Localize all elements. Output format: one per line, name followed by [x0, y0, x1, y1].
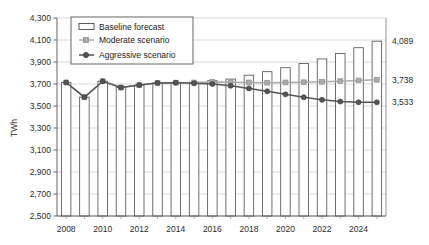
marker-aggressive-2011 [118, 85, 123, 90]
electricity-demand-forecast-chart: 2,5002,7002,9003,1003,3003,5003,7003,900… [0, 0, 429, 245]
bar-2015 [189, 82, 199, 216]
y-tick-label: 2,500 [30, 211, 52, 221]
legend-label-baseline: Baseline forecast [99, 22, 165, 32]
legend-label-moderate: Moderate scenario [99, 35, 170, 45]
bar-2008 [61, 82, 71, 216]
bar-2017 [226, 79, 236, 216]
line-moderate-path [66, 80, 377, 97]
y-axis-title: TWh [9, 119, 19, 137]
bar-2011 [116, 88, 126, 216]
legend-label-aggressive: Aggressive scenario [99, 50, 176, 60]
marker-aggressive-2008 [64, 80, 69, 85]
marker-moderate-2025 [374, 77, 379, 82]
bar-2010 [98, 81, 108, 216]
bar-2018 [244, 75, 254, 216]
marker-aggressive-2019 [265, 89, 270, 94]
marker-moderate-2022 [320, 79, 325, 84]
y-tick-label: 3,300 [30, 123, 52, 133]
chart-container: 2,5002,7002,9003,1003,3003,5003,7003,900… [0, 0, 429, 245]
line-aggressive-path [66, 81, 377, 102]
y-tick-label: 2,700 [30, 189, 52, 199]
y-tick-label: 3,700 [30, 79, 52, 89]
series-end-labels: 4,0893,7383,533 [392, 36, 414, 107]
bar-2025 [372, 41, 382, 216]
x-tick-label-2022: 2022 [313, 224, 332, 234]
y-axis-tick-labels: 2,5002,7002,9003,1003,3003,5003,7003,900… [30, 13, 52, 221]
y-tick-label: 3,500 [30, 101, 52, 111]
marker-aggressive-2010 [100, 79, 105, 84]
bar-2014 [171, 83, 181, 216]
marker-moderate-2024 [356, 78, 361, 83]
legend-swatch-baseline [79, 24, 94, 30]
bar-2021 [299, 64, 309, 216]
marker-aggressive-2025 [374, 100, 379, 105]
marker-aggressive-2009 [82, 95, 87, 100]
bar-2009 [80, 97, 90, 216]
marker-moderate-2020 [283, 80, 288, 85]
chart-legend: Baseline forecast Moderate scenario Aggr… [71, 17, 193, 64]
x-tick-label-2024: 2024 [349, 224, 368, 234]
marker-aggressive-2023 [338, 99, 343, 104]
end-label-baseline: 4,089 [392, 36, 414, 46]
end-label-moderate: 3,738 [392, 75, 414, 85]
y-tick-label: 2,900 [30, 167, 52, 177]
x-tick-label-2010: 2010 [93, 224, 112, 234]
marker-aggressive-2017 [228, 83, 233, 88]
marker-aggressive-2021 [301, 95, 306, 100]
marker-moderate-2018 [247, 80, 252, 85]
marker-aggressive-2014 [173, 80, 178, 85]
marker-aggressive-2018 [246, 86, 251, 91]
legend-marker-moderate [84, 38, 89, 43]
bar-2024 [354, 48, 364, 216]
y-tick-label: 4,300 [30, 13, 52, 23]
marker-moderate-2023 [338, 79, 343, 84]
marker-moderate-2021 [301, 80, 306, 85]
baseline-forecast-bars [61, 41, 381, 216]
x-tick-label-2008: 2008 [57, 224, 76, 234]
y-tick-label: 3,900 [30, 57, 52, 67]
marker-aggressive-2015 [192, 81, 197, 86]
bar-2016 [208, 81, 218, 216]
legend-marker-aggressive [83, 52, 88, 57]
bar-2013 [153, 83, 163, 216]
marker-aggressive-2020 [283, 92, 288, 97]
x-tick-label-2014: 2014 [166, 224, 185, 234]
bar-2012 [135, 85, 145, 216]
marker-aggressive-2022 [320, 97, 325, 102]
marker-aggressive-2024 [356, 100, 361, 105]
bar-2020 [281, 68, 291, 216]
marker-aggressive-2012 [137, 83, 142, 88]
marker-moderate-2019 [265, 80, 270, 85]
x-tick-label-2016: 2016 [203, 224, 222, 234]
x-tick-label-2012: 2012 [130, 224, 149, 234]
end-label-aggressive: 3,533 [392, 97, 414, 107]
marker-aggressive-2013 [155, 80, 160, 85]
y-tick-label: 4,100 [30, 35, 52, 45]
x-tick-label-2018: 2018 [239, 224, 258, 234]
y-tick-label: 3,100 [30, 145, 52, 155]
moderate-scenario-line [64, 77, 380, 99]
x-axis-tick-labels: 200820102012201420162018202020222024 [57, 224, 369, 234]
bar-2023 [336, 53, 346, 216]
marker-aggressive-2016 [210, 82, 215, 87]
x-tick-label-2020: 2020 [276, 224, 295, 234]
